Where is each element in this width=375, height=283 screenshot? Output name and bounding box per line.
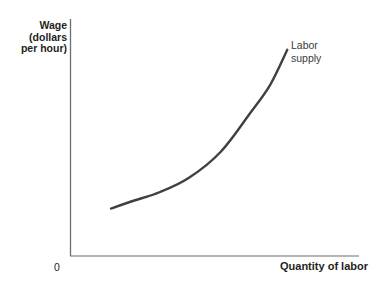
curve-annotation-line-1: Labor xyxy=(291,39,321,52)
x-axis-label: Quantity of labor xyxy=(238,260,368,272)
y-axis-label-line-3: per hour) xyxy=(0,43,67,55)
origin-tick-label: 0 xyxy=(50,261,64,273)
y-axis-label-line-1: Wage xyxy=(0,20,67,32)
curve-annotation-labor-supply: Labor supply xyxy=(291,39,321,65)
curve-annotation-line-2: supply xyxy=(291,52,321,65)
labor-supply-figure: Wage (dollars per hour) Labor supply 0 Q… xyxy=(0,0,375,283)
y-axis-label: Wage (dollars per hour) xyxy=(0,20,67,55)
labor-supply-curve xyxy=(111,50,287,209)
